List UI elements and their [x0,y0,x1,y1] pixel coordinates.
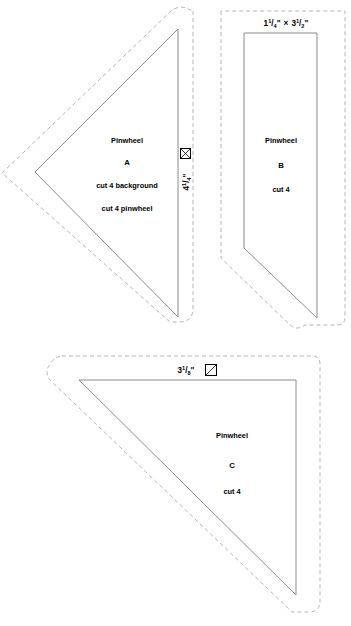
template-c-group[interactable]: Pinwheel C cut 4 31/8" [47,356,320,612]
template-a-dim-unit: " [182,173,191,177]
template-a-letter: A [124,158,130,167]
template-c-cut-line [79,380,296,595]
template-b-cut-instruction-1: cut 4 [272,185,290,194]
template-c-cut-instruction-1: cut 4 [223,487,241,496]
svg-text:41/4": 41/4" [181,173,192,190]
template-a-dimension: 41/4" [181,173,192,190]
template-a-cut-instruction-2: cut 4 pinwheel [102,204,153,213]
template-b-group[interactable]: Pinwheel B cut 4 11/4"×31/2" [221,11,345,328]
template-c-dimension: 31/8" [178,365,195,376]
template-c-dim-unit: " [191,366,195,375]
template-b-cut-line [244,33,317,318]
template-b-dim-unit-1: " [277,19,281,28]
template-a-cut-line [35,29,178,317]
half-square-triangle-icon [206,365,217,376]
template-b-dim-times: × [284,19,289,28]
template-a-group[interactable]: Pinwheel A cut 4 background cut 4 pinwhe… [2,7,193,322]
template-b-letter: B [278,161,284,170]
template-sheet: Pinwheel A cut 4 background cut 4 pinwhe… [0,0,351,626]
template-a-pattern-name: Pinwheel [111,136,143,145]
template-b-dimension: 11/4"×31/2" [264,18,309,29]
quarter-square-triangle-icon [181,149,191,159]
template-a-cut-instruction-1: cut 4 background [96,181,158,190]
pattern-canvas: Pinwheel A cut 4 background cut 4 pinwhe… [0,0,351,626]
template-c-pattern-name: Pinwheel [216,431,248,440]
template-c-letter: C [229,461,235,470]
template-b-dim-unit-2: " [304,19,308,28]
template-b-pattern-name: Pinwheel [265,136,297,145]
